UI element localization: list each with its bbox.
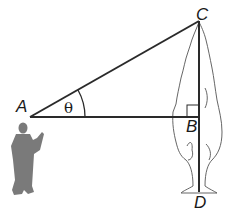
right-angle-marker xyxy=(187,105,199,117)
trigonometry-diagram: θ A B C D xyxy=(0,0,234,214)
person-silhouette xyxy=(11,123,44,196)
tree-outline xyxy=(173,22,222,193)
diagram-canvas: θ A B C D xyxy=(0,0,234,214)
triangle xyxy=(30,21,199,192)
angle-theta-label: θ xyxy=(64,99,73,117)
point-C-label: C xyxy=(196,5,209,24)
line-AC xyxy=(30,21,199,117)
point-A-label: A xyxy=(15,97,27,116)
angle-arc xyxy=(78,90,85,117)
point-B-label: B xyxy=(186,117,197,136)
point-D-label: D xyxy=(194,193,206,212)
